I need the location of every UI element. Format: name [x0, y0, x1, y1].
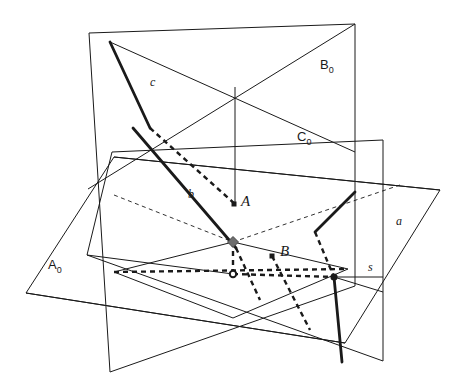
line-c-thick: [110, 42, 150, 128]
line-b-thick: [133, 128, 236, 248]
dashed-lines-group: [114, 128, 400, 330]
tri-bottom-left: [114, 272, 233, 318]
point-B: [270, 254, 275, 259]
point-foot-circle: [230, 271, 236, 277]
planes-group: [26, 24, 440, 372]
line-label-b: b: [188, 187, 194, 202]
plane-label-C0: C0: [297, 129, 311, 147]
plane-label-B0: B0: [320, 57, 334, 75]
plane-label-subscript: 0: [57, 265, 62, 275]
tri-right: [233, 242, 348, 269]
point-label-B: B: [280, 243, 289, 260]
diagram-canvas: [0, 0, 463, 392]
solid-thin-lines-group: [26, 24, 440, 343]
point-A: [232, 202, 237, 207]
plane-label-subscript: 0: [306, 137, 311, 147]
tri-left: [114, 242, 233, 272]
line-s-thick: [334, 277, 342, 362]
plane-label-subscript: 0: [329, 65, 334, 75]
point-s-node: [330, 273, 337, 280]
point-label-A: A: [241, 193, 250, 210]
line-label-c: c: [150, 75, 155, 90]
line-label-a: a: [396, 214, 402, 229]
geometry-figure: A0 B0 C0 a b c s A B: [0, 0, 463, 392]
b0-diag-1: [110, 42, 355, 152]
plane-label-A0: A0: [48, 257, 62, 275]
s-lower: [334, 277, 383, 292]
dash-thin-plane-left: [114, 195, 233, 242]
b0-diag-2: [88, 24, 355, 189]
cross-long-1: [26, 293, 345, 343]
dash-b-lower: [236, 248, 260, 300]
plane-B0: [89, 24, 355, 372]
line-label-s: s: [368, 260, 373, 275]
